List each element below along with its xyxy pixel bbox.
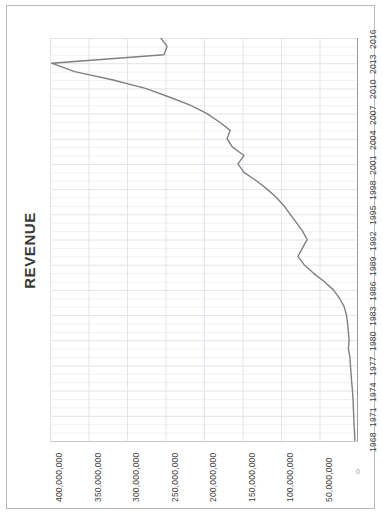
year-tick-label: 2004 (368, 130, 378, 150)
year-tick-label: 1983 (368, 306, 378, 326)
year-tick-label: 2001 (368, 155, 378, 175)
year-tick-label: 1971 (368, 407, 378, 427)
year-tick-label: 1977 (368, 357, 378, 377)
year-tick-label: 2007 (368, 105, 378, 125)
value-axis-zero-tick: 0 (356, 468, 360, 475)
year-tick-label: 2016 (368, 29, 378, 49)
plot-area (50, 38, 358, 441)
value-axis-line (50, 441, 358, 442)
value-tick-label: 200,000,000 (208, 453, 218, 502)
year-tick-label: 1968 (368, 432, 378, 452)
chart-plot-svg (50, 38, 358, 441)
value-tick-label: 150,000,000 (247, 453, 257, 502)
chart-page: REVENUE 19681971197419771980198319861989… (0, 0, 383, 524)
value-tick-label: 100,000,000 (285, 453, 295, 502)
document-frame: REVENUE 19681971197419771980198319861989… (6, 5, 375, 509)
chart-title: REVENUE (21, 181, 38, 321)
year-tick-label: 1974 (368, 382, 378, 402)
value-tick-label: 50,000,000 (324, 457, 334, 502)
year-tick-label: 2013 (368, 54, 378, 74)
year-tick-label: 1995 (368, 206, 378, 226)
year-tick-label: 1980 (368, 332, 378, 352)
value-tick-label: 400,000,000 (54, 453, 64, 502)
year-tick-label: 1989 (368, 256, 378, 276)
year-tick-label: 2010 (368, 80, 378, 100)
year-tick-label: 1992 (368, 231, 378, 251)
value-tick-label: 350,000,000 (93, 453, 103, 502)
year-tick-label: 1986 (368, 281, 378, 301)
value-tick-label: 300,000,000 (131, 453, 141, 502)
value-tick-label: 250,000,000 (170, 453, 180, 502)
year-tick-label: 1998 (368, 180, 378, 200)
category-axis-line (357, 38, 358, 442)
